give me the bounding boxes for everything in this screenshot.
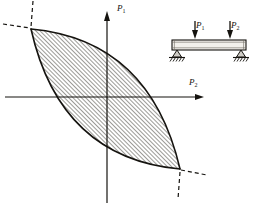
load-p2-label: P2 [231,21,240,30]
load-p1-label-subscript: 1 [202,25,205,31]
load-p1-label: P1 [196,21,205,30]
load-p2-label-letter: P [231,20,237,30]
p2-axis-label-letter: P [189,77,195,87]
beam-body [172,40,246,50]
p1-axis-label: P1 [117,4,126,13]
p2-axis-label: P2 [189,78,198,87]
p2-axis-label-subscript: 2 [195,82,198,88]
p1-axis-label-subscript: 1 [123,8,126,14]
load-p1-label-letter: P [196,20,202,30]
load-p2-label-subscript: 2 [237,25,240,31]
figure-root: P1 P2 P1 P2 [0,0,257,203]
p1-axis-label-letter: P [117,3,123,13]
engineering-diagram-canvas [0,0,257,203]
